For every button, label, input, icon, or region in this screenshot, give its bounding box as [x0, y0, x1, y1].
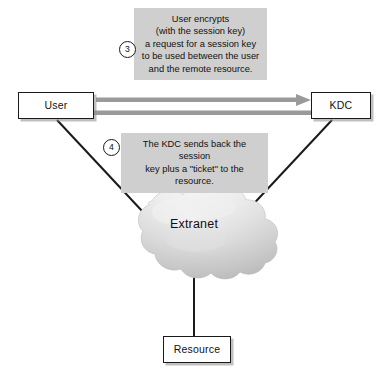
step-number-badge-4: 4: [103, 139, 120, 156]
extranet-cloud-label: Extranet: [131, 217, 257, 231]
step-number-badge-3: 3: [119, 41, 136, 58]
extranet-cloud-icon: [138, 185, 277, 279]
callout-step-3-line-1: User encrypts: [172, 14, 229, 24]
kerberos-extranet-diagram: User encrypts (with the session key) a r…: [0, 0, 389, 372]
node-resource-label: Resource: [174, 344, 221, 355]
callout-step-3-line-3: a request for a session key: [145, 39, 256, 49]
node-kdc-label: KDC: [330, 100, 353, 111]
node-resource: Resource: [163, 336, 231, 363]
node-user: User: [18, 92, 94, 119]
callout-step-3: User encrypts (with the session key) a r…: [134, 8, 267, 80]
callout-step-4: The KDC sends back the session key plus …: [121, 133, 268, 193]
callout-step-3-line-5: and the remote resource.: [149, 64, 253, 74]
callout-step-3-line-2: (with the session key): [156, 26, 245, 36]
callout-step-4-line-1: The KDC sends back the session: [143, 139, 246, 161]
user-to-kdc-arrow: [96, 94, 311, 106]
callout-step-4-line-2: key plus a "ticket" to the resource.: [145, 164, 244, 186]
node-kdc: KDC: [311, 92, 371, 119]
node-user-label: User: [45, 100, 68, 111]
kdc-to-user-arrow: [78, 107, 311, 119]
callout-step-3-line-4: to be used between the user: [142, 51, 259, 61]
